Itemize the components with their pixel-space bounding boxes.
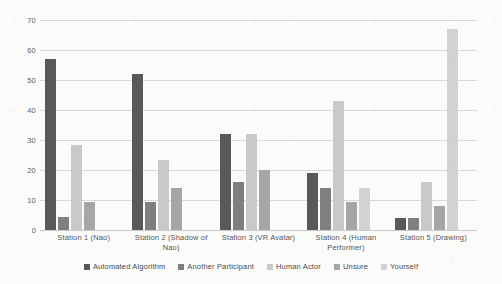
bar[interactable]: [71, 145, 82, 231]
bar-group: [40, 20, 127, 230]
legend-item[interactable]: Automated Algorithm: [84, 262, 165, 271]
bar[interactable]: [408, 218, 419, 230]
bar[interactable]: [320, 188, 331, 230]
y-axis-tick-label: 20: [2, 166, 36, 175]
legend-label: Automated Algorithm: [93, 262, 165, 271]
bar[interactable]: [233, 182, 244, 230]
category-axis-labels: Station 1 (Nao)Station 2 (Shadow of Nao)…: [40, 233, 477, 253]
y-axis: 706050403020100: [0, 20, 36, 230]
y-axis-tick-label: 0: [2, 226, 36, 235]
bar-chart: 706050403020100 Station 1 (Nao)Station 2…: [0, 0, 502, 284]
y-axis-tick-label: 60: [2, 46, 36, 55]
legend-swatch-icon: [267, 264, 273, 270]
y-axis-tick-label: 50: [2, 76, 36, 85]
bar[interactable]: [84, 202, 95, 231]
bar[interactable]: [45, 59, 56, 230]
legend-label: Human Actor: [276, 262, 321, 271]
bar[interactable]: [333, 101, 344, 230]
legend-swatch-icon: [334, 264, 340, 270]
bar-group: [390, 20, 477, 230]
bar[interactable]: [171, 188, 182, 230]
legend-item[interactable]: Human Actor: [267, 262, 321, 271]
bar[interactable]: [447, 29, 458, 230]
category-label: Station 4 (Human Performer): [302, 233, 389, 253]
category-label: Station 5 (Drawing): [390, 233, 477, 253]
y-axis-tick-label: 10: [2, 196, 36, 205]
bar[interactable]: [359, 188, 370, 230]
category-label: Station 1 (Nao): [40, 233, 127, 253]
legend-item[interactable]: Another Participant: [178, 262, 254, 271]
y-axis-tick-label: 40: [2, 106, 36, 115]
legend-item[interactable]: Unsure: [334, 262, 368, 271]
bar[interactable]: [132, 74, 143, 230]
category-label: Station 3 (VR Avatar): [215, 233, 302, 253]
gridline: [40, 230, 477, 231]
bar[interactable]: [395, 218, 406, 230]
bar-group: [302, 20, 389, 230]
y-axis-tick-label: 70: [2, 16, 36, 25]
bar[interactable]: [246, 134, 257, 230]
bar[interactable]: [158, 160, 169, 231]
chart-legend: Automated AlgorithmAnother ParticipantHu…: [0, 262, 502, 271]
legend-label: Another Participant: [187, 262, 254, 271]
legend-swatch-icon: [178, 264, 184, 270]
bar[interactable]: [58, 217, 69, 231]
bar[interactable]: [434, 206, 445, 230]
bar[interactable]: [145, 202, 156, 231]
legend-swatch-icon: [381, 264, 387, 270]
legend-label: Unsure: [343, 262, 368, 271]
legend-swatch-icon: [84, 264, 90, 270]
bar[interactable]: [307, 173, 318, 230]
bar[interactable]: [220, 134, 231, 230]
bar-group: [215, 20, 302, 230]
legend-item[interactable]: Yourself: [381, 262, 418, 271]
bar-groups-container: [40, 20, 477, 230]
bar[interactable]: [421, 182, 432, 230]
category-label: Station 2 (Shadow of Nao): [127, 233, 214, 253]
bar[interactable]: [346, 202, 357, 231]
legend-label: Yourself: [390, 262, 418, 271]
bar-group: [127, 20, 214, 230]
bar[interactable]: [259, 170, 270, 230]
y-axis-tick-label: 30: [2, 136, 36, 145]
